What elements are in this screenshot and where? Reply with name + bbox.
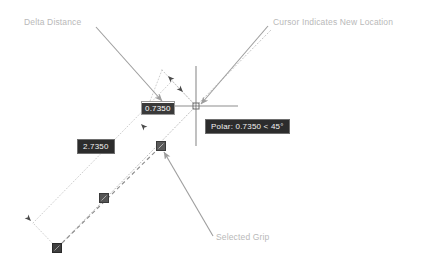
leader-selected-grip <box>164 152 213 236</box>
dimension-chip-total-length[interactable]: 2.7350 <box>77 139 115 154</box>
arrowhead-length-upper <box>139 122 147 130</box>
annotation-label-delta-distance: Delta Distance <box>24 17 81 27</box>
dynamic-input-field[interactable]: 0.7350 <box>141 101 175 115</box>
annotation-label-selected-grip: Selected Grip <box>216 232 269 242</box>
leader-cursor-location <box>201 26 268 104</box>
arrowhead-length-lower <box>25 215 33 223</box>
polar-tracking-ray <box>196 30 271 106</box>
dynamic-input-value[interactable]: 0.7350 <box>142 103 174 114</box>
leader-delta-distance <box>96 27 162 101</box>
drawing-canvas[interactable]: Delta Distance Cursor Indicates New Loca… <box>0 0 424 267</box>
polar-tracking-tooltip: Polar: 0.7350 < 45° <box>205 119 290 134</box>
delta-witness-line <box>150 70 162 101</box>
annotation-label-cursor-location: Cursor Indicates New Location <box>273 17 393 27</box>
